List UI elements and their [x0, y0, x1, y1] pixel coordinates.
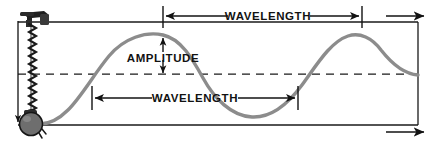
diagram-frame — [18, 22, 418, 125]
wave-diagram-figure: WAVELENGTH WAVELENGTH AMPLITUDE — [0, 0, 432, 146]
ball-highlight — [23, 116, 31, 122]
pendulum-ball-icon — [20, 113, 43, 136]
transverse-wave-curve — [33, 34, 418, 124]
wave-diagram-canvas: WAVELENGTH WAVELENGTH AMPLITUDE — [0, 0, 432, 146]
clamp-bracket-icon — [20, 11, 49, 27]
spring-coil-icon — [29, 24, 36, 120]
wavelength-top-label: WAVELENGTH — [225, 10, 311, 22]
wavelength-bottom-label: WAVELENGTH — [152, 92, 238, 104]
amplitude-label: AMPLITUDE — [127, 52, 199, 64]
amplitude-dimension: AMPLITUDE — [127, 38, 199, 73]
wave-curve-group — [33, 34, 418, 124]
wavelength-top-dimension: WAVELENGTH — [163, 6, 362, 28]
wavelength-bottom-dimension: WAVELENGTH — [92, 86, 298, 110]
